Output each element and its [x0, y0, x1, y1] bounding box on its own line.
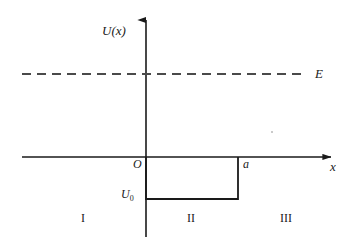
origin-label: O	[133, 158, 142, 170]
scan-speck	[271, 131, 273, 133]
barrier-edge-label: a	[243, 158, 249, 170]
region-label-one: I	[81, 212, 85, 224]
well-depth-symbol: U	[121, 187, 130, 201]
region-label-three: III	[280, 212, 292, 224]
potential-well-diagram: U(x) E O a x U0 I II III	[0, 0, 351, 244]
x-axis-label: x	[330, 160, 336, 173]
region-label-two: II	[187, 212, 195, 224]
y-axis-label: U(x)	[102, 24, 126, 37]
well-depth-subscript: 0	[130, 194, 134, 203]
well-depth-label: U0	[121, 188, 134, 203]
energy-level-label: E	[315, 67, 323, 80]
diagram-canvas	[0, 0, 351, 244]
potential-well-curve	[146, 157, 238, 199]
